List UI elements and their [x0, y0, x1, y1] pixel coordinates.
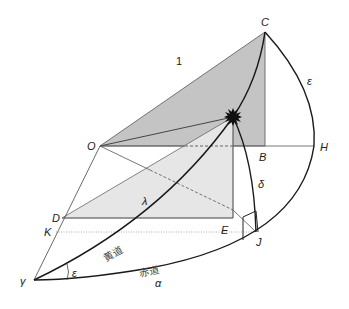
diagram-canvas: C O B H D K E J γ 1 ε ε λ δ α 黄道 赤道 [0, 0, 349, 309]
triangle-OCB [100, 32, 265, 146]
label-ecliptic: 黄道 [101, 243, 124, 263]
label-H: H [320, 141, 328, 153]
label-delta: δ [258, 178, 265, 190]
label-lambda: λ [141, 195, 147, 207]
angle-epsilon-arc [67, 264, 69, 280]
line-O-J-end [233, 210, 256, 232]
label-C: C [261, 16, 269, 28]
label-epsilon-arc: ε [307, 75, 312, 87]
label-alpha: α [155, 277, 162, 289]
label-D: D [52, 212, 60, 224]
arc-C-H [265, 32, 314, 146]
label-J: J [255, 236, 262, 248]
label-O: O [87, 140, 96, 152]
label-B: B [259, 151, 266, 163]
line-O-J-solid [100, 146, 150, 170]
label-K: K [44, 226, 52, 238]
label-radius: 1 [176, 55, 182, 67]
label-gamma: γ [20, 275, 27, 287]
label-epsilon-angle: ε [72, 267, 77, 279]
celestial-diagram: C O B H D K E J γ 1 ε ε λ δ α 黄道 赤道 [0, 0, 349, 309]
label-E: E [221, 224, 229, 236]
